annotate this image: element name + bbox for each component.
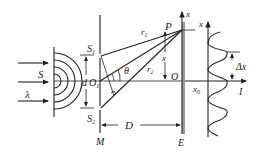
graph-origin-label: x0 [192,84,200,95]
slit-separation-label: d [82,77,88,88]
rays [100,30,182,108]
r1-label: r1 [141,27,148,38]
screen-axis-label: x [185,9,190,19]
slit2-label: S2 [87,113,95,125]
point-p-label: P [164,20,172,32]
intensity-graph [185,22,246,137]
double-slit-diagram: S λ S1 S2 d O1 θ r1 r2 P O x x D M E x x… [0,0,267,152]
origin-label: O [171,71,178,82]
midpoint-label: O1 [89,77,99,89]
slit-screen-label: M [95,136,105,147]
slit1-label: S1 [87,43,95,55]
intensity-label: I [238,86,243,97]
position-x-label: x [161,53,166,63]
wavelength-label: λ [24,88,30,100]
r2-label: r2 [147,64,154,75]
fringe-spacing-label: Δx [235,61,247,72]
observation-screen-label: E [177,137,184,148]
angle-label: θ [124,65,129,76]
source-label: S [38,68,44,80]
incident-light-arrows [18,63,48,101]
graph-axis-label: x [198,19,203,29]
distance-label: D [124,119,133,131]
